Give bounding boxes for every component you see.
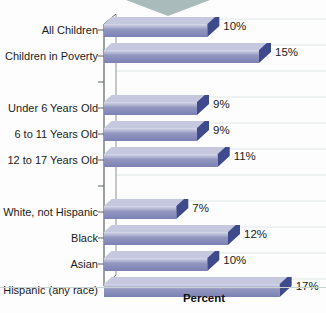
plot-area: All Children10%Children in Poverty15%Und… <box>0 14 326 286</box>
bar-value-label: 7% <box>192 195 209 221</box>
bar-front-face <box>104 128 197 141</box>
bar-row: 12 to 17 Years Old11% <box>0 147 326 173</box>
bar-row: Black12% <box>0 225 326 251</box>
bar-value-label: 9% <box>213 91 230 117</box>
bar-front-face <box>104 206 176 219</box>
bar-row: Children in Poverty15% <box>0 43 326 69</box>
bar-top-face <box>104 43 271 50</box>
bar-front-face <box>104 102 197 115</box>
bar-value-label: 9% <box>213 117 230 143</box>
bar-shape <box>0 121 326 147</box>
bar-chart: All Children10%Children in Poverty15%Und… <box>0 0 326 313</box>
baseline-rule <box>0 287 326 288</box>
bar-shape <box>0 251 326 277</box>
bar-top-face <box>104 121 209 128</box>
x-axis-title: Percent <box>104 292 304 304</box>
bar-shape <box>0 147 326 173</box>
bar-value-label: 10% <box>223 13 246 39</box>
bar-front-face <box>104 154 218 167</box>
bar-value-label: 12% <box>244 221 267 247</box>
bar-value-label: 10% <box>223 247 246 273</box>
bar-top-face <box>104 199 188 206</box>
bar-shape <box>0 225 326 251</box>
bar-shape <box>0 199 326 225</box>
bar-top-face <box>104 251 219 258</box>
bar-top-face <box>104 147 230 154</box>
bar-row: Asian10% <box>0 251 326 277</box>
bar-top-face <box>104 17 219 24</box>
bar-top-face <box>104 95 209 102</box>
bar-front-face <box>104 258 207 271</box>
bar-row: White, not Hispanic7% <box>0 199 326 225</box>
bar-front-face <box>104 232 228 245</box>
bar-value-label: 11% <box>234 143 256 169</box>
bar-front-face <box>104 50 259 63</box>
bar-front-face <box>104 24 207 37</box>
bar-row: Under 6 Years Old9% <box>0 95 326 121</box>
bar-row: 6 to 11 Years Old9% <box>0 121 326 147</box>
bar-shape <box>0 95 326 121</box>
bar-top-face <box>104 277 292 284</box>
bar-top-face <box>104 225 240 232</box>
bar-value-label: 15% <box>275 39 298 65</box>
